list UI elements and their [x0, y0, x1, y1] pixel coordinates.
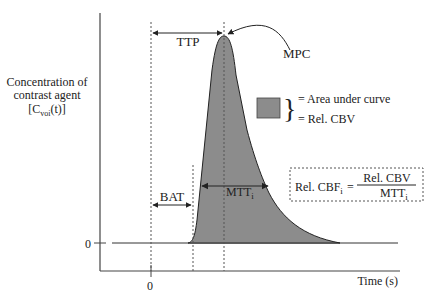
bat-label: BAT [160, 189, 185, 204]
mpc-pointer [228, 25, 290, 50]
legend-line-2: = Rel. CBV [298, 112, 355, 126]
ttp-label: TTP [176, 34, 199, 49]
formula-denominator: MTTi [380, 186, 408, 202]
legend-swatch [257, 98, 280, 118]
formula-numerator: Rel. CBV [363, 171, 411, 185]
y-axis-label-symbol: [Cvoi(t)] [28, 102, 66, 118]
mtt-label: MTTi [226, 185, 254, 201]
formula-lhs: Rel. CBFi= [295, 180, 354, 196]
perfusion-diagram: TTP MPC BAT MTTi } = Area under curve = … [0, 0, 439, 304]
y-axis-label-line-1: Concentration of [7, 75, 88, 89]
concentration-curve [188, 36, 340, 243]
y-axis-label-line-2: contrast agent [14, 88, 82, 102]
legend-brace: } [283, 93, 296, 124]
legend-line-1: = Area under curve [298, 92, 390, 106]
y-zero-label: 0 [85, 237, 91, 251]
x-zero-label: 0 [147, 279, 153, 293]
x-axis-label: Time (s) [357, 274, 398, 288]
mpc-label: MPC [283, 46, 310, 61]
